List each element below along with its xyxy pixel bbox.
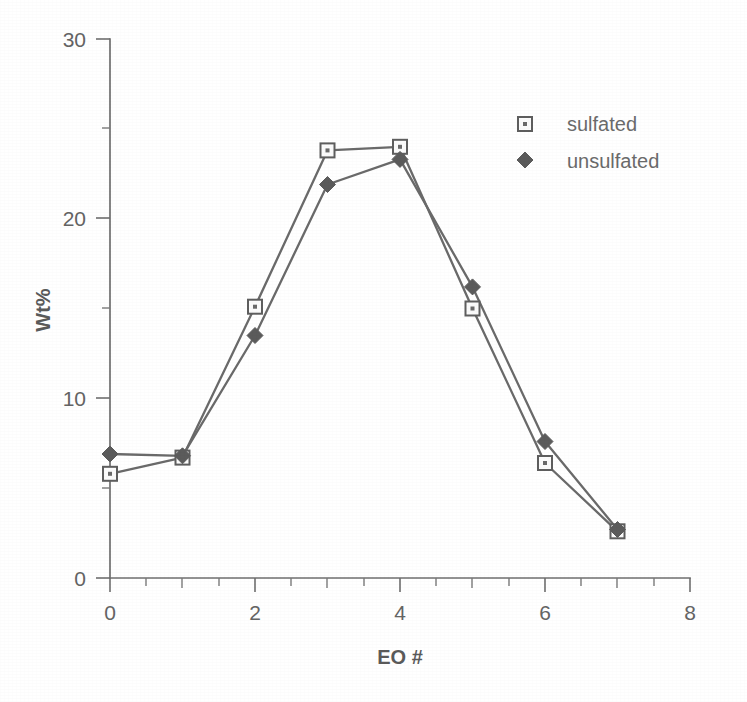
legend-item-sulfated: sulfated	[518, 113, 637, 135]
series-markers-sulfated: sulfated — EO 0: 5.8 Wt%sulfated — EO 1:…	[103, 140, 625, 539]
x-tick-label-0: 0	[104, 601, 116, 624]
x-tick-label-4: 4	[394, 601, 406, 624]
x-axis-title: EO #	[377, 646, 423, 668]
data-point-marker: sulfated — EO 0: 5.8 Wt%	[103, 467, 117, 481]
x-tick-label-2: 2	[249, 601, 261, 624]
legend: sulfated unsulfated	[517, 113, 659, 172]
x-tick-label-6: 6	[539, 601, 551, 624]
x-tick-label-8: 8	[684, 601, 696, 624]
x-axis	[110, 578, 690, 592]
series-line-unsulfated	[110, 159, 618, 529]
data-point-marker: sulfated — EO 2: 15.1 Wt%	[248, 300, 262, 314]
data-point-marker: sulfated — EO 6: 6.4 Wt%	[538, 456, 552, 470]
legend-label-sulfated: sulfated	[567, 113, 637, 135]
y-axis-title: Wt%	[32, 288, 54, 332]
line-chart: 30 20 10 0 0 2 4 6 8 Wt% EO # sulfated —…	[0, 0, 747, 702]
legend-open-square-center-icon	[523, 122, 527, 126]
chart-figure: 30 20 10 0 0 2 4 6 8 Wt% EO # sulfated —…	[0, 0, 747, 702]
data-point-marker: unsulfated — EO 2: 13.5 Wt%	[247, 328, 263, 344]
series-markers-unsulfated: unsulfated — EO 0: 6.9 Wt%unsulfated — E…	[102, 151, 626, 537]
data-point-marker: unsulfated — EO 5: 16.2 Wt%	[465, 279, 481, 295]
series-group: sulfated — EO 0: 5.8 Wt%sulfated — EO 1:…	[102, 140, 626, 539]
data-point-marker: sulfated — EO 5: 15 Wt%	[466, 302, 480, 316]
series-line-sulfated	[110, 147, 618, 532]
legend-filled-diamond-icon	[517, 152, 533, 168]
y-axis	[96, 39, 110, 578]
legend-label-unsulfated: unsulfated	[567, 150, 659, 172]
x-tick-labels: 0 2 4 6 8	[104, 601, 696, 624]
y-tick-labels: 30 20 10 0	[63, 28, 86, 590]
legend-item-unsulfated: unsulfated	[517, 150, 659, 172]
y-tick-label-0: 0	[74, 567, 86, 590]
data-point-marker: sulfated — EO 3: 23.8 Wt%	[321, 143, 335, 157]
data-point-marker: unsulfated — EO 3: 21.9 Wt%	[320, 177, 336, 193]
data-point-marker: unsulfated — EO 0: 6.9 Wt%	[102, 446, 118, 462]
y-tick-label-30: 30	[63, 28, 86, 51]
y-tick-label-10: 10	[63, 387, 86, 410]
y-tick-label-20: 20	[63, 207, 86, 230]
